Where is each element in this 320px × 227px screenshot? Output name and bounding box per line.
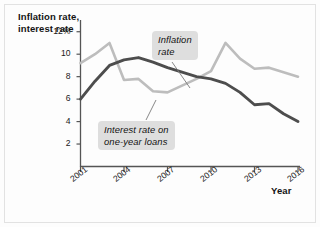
y-tick-label: 6 [41,93,71,103]
annotation-interest-rate: Interest rate on one-year loans [98,121,175,150]
y-tick-label: 12% [41,26,71,36]
y-tick-label: 2 [41,138,71,148]
y-tick-label: 10 [41,48,71,58]
leader-line-interest [146,100,156,120]
annotation-inflation-rate: Inflation rate [152,31,198,60]
y-tick-label: 4 [41,116,71,126]
x-axis-title: Year [271,185,291,197]
x-tick-marks [81,167,299,173]
y-tick-label: 8 [41,71,71,81]
chart-figure: Inflation rate, interest rate Year 12%10… [0,0,320,227]
